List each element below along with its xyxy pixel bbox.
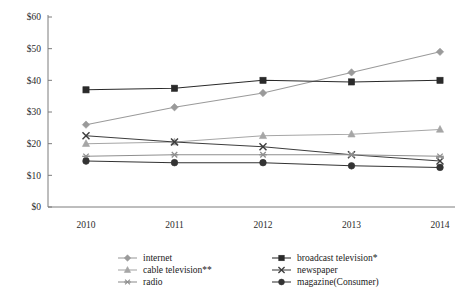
data-point-marker bbox=[348, 152, 356, 157]
legend-item-magazine-consumer-[interactable]: magazine(Consumer) bbox=[272, 277, 379, 288]
data-point-marker bbox=[83, 158, 90, 165]
data-point-marker bbox=[260, 77, 266, 83]
series-radio bbox=[82, 152, 444, 159]
y-axis-tick-marks bbox=[48, 17, 52, 207]
y-tick-label: $20 bbox=[27, 139, 42, 149]
series-magazine-consumer- bbox=[83, 158, 444, 171]
line-chart: $0$10$20$30$40$50$60 2010201120122013201… bbox=[0, 0, 464, 305]
data-point-marker bbox=[171, 104, 178, 111]
legend-item-newspaper[interactable]: newspaper bbox=[272, 265, 338, 275]
x-tick-label: 2011 bbox=[165, 220, 184, 230]
data-point-marker bbox=[279, 255, 284, 260]
y-tick-label: $0 bbox=[32, 202, 42, 212]
chart-canvas: $0$10$20$30$40$50$60 2010201120122013201… bbox=[0, 0, 464, 305]
chart-legend: internetbroadcast television*cable telev… bbox=[118, 253, 379, 288]
data-point-marker bbox=[259, 89, 266, 96]
y-tick-label: $10 bbox=[27, 171, 42, 181]
series-line bbox=[86, 136, 440, 161]
legend-item-label: radio bbox=[143, 277, 163, 287]
y-axis-tick-labels: $0$10$20$30$40$50$60 bbox=[27, 12, 42, 212]
x-tick-label: 2014 bbox=[431, 220, 450, 230]
x-axis-tick-labels: 20102011201220132014 bbox=[77, 220, 450, 230]
data-point-marker bbox=[348, 69, 355, 76]
y-tick-label: $30 bbox=[27, 107, 42, 117]
series-line bbox=[86, 52, 440, 125]
series-internet bbox=[82, 48, 443, 128]
legend-item-label: magazine(Consumer) bbox=[297, 277, 379, 288]
legend-item-broadcast-television-[interactable]: broadcast television* bbox=[272, 253, 378, 263]
legend-item-label: newspaper bbox=[297, 265, 338, 275]
data-point-marker bbox=[436, 48, 443, 55]
data-point-marker bbox=[171, 159, 178, 166]
data-point-marker bbox=[83, 87, 89, 93]
data-point-marker bbox=[171, 152, 179, 157]
x-tick-label: 2013 bbox=[342, 220, 361, 230]
y-axis-group: $0$10$20$30$40$50$60 bbox=[27, 12, 52, 212]
legend-item-label: broadcast television* bbox=[297, 253, 378, 263]
series-cable-television- bbox=[82, 126, 443, 147]
data-point-marker bbox=[260, 159, 267, 166]
data-point-marker bbox=[259, 152, 267, 157]
y-tick-label: $40 bbox=[27, 76, 42, 86]
data-point-marker bbox=[124, 255, 131, 262]
data-point-marker bbox=[279, 279, 285, 285]
legend-item-radio[interactable]: radio bbox=[118, 277, 163, 287]
data-point-marker bbox=[124, 280, 131, 285]
data-point-marker bbox=[348, 163, 355, 170]
data-point-marker bbox=[436, 154, 444, 159]
x-tick-label: 2010 bbox=[77, 220, 96, 230]
data-point-marker bbox=[171, 85, 177, 91]
data-point-marker bbox=[437, 77, 443, 83]
series-layer bbox=[82, 48, 444, 171]
data-point-marker bbox=[437, 164, 444, 171]
legend-item-cable-television-[interactable]: cable television** bbox=[118, 265, 212, 275]
y-tick-label: $60 bbox=[27, 12, 42, 22]
x-tick-label: 2012 bbox=[254, 220, 273, 230]
legend-item-label: cable television** bbox=[143, 265, 212, 275]
y-tick-label: $50 bbox=[27, 44, 42, 54]
x-axis-group: 20102011201220132014 bbox=[48, 207, 455, 230]
legend-item-label: internet bbox=[143, 253, 172, 263]
data-point-marker bbox=[436, 126, 443, 133]
data-point-marker bbox=[348, 79, 354, 85]
data-point-marker bbox=[82, 121, 89, 128]
legend-item-internet[interactable]: internet bbox=[118, 253, 172, 263]
